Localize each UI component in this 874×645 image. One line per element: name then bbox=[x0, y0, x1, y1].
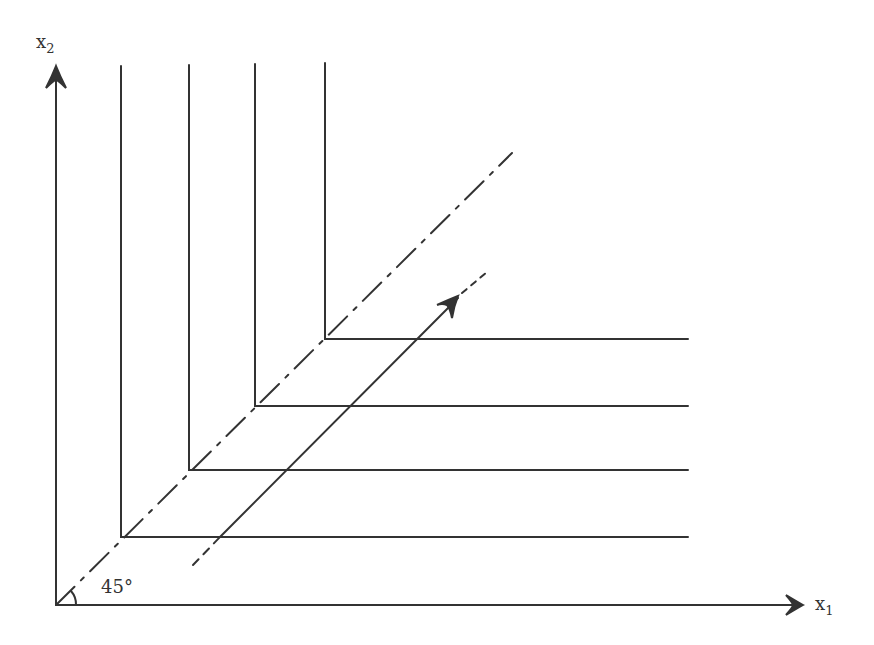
isoquant-1 bbox=[121, 66, 688, 537]
isoquant-diagram: x2 x1 45° bbox=[0, 0, 874, 645]
angle-arc bbox=[71, 591, 76, 605]
angle-label: 45° bbox=[101, 576, 133, 597]
isoquant-2 bbox=[189, 65, 688, 470]
x-axis-label: x1 bbox=[815, 593, 833, 618]
isoquant-3 bbox=[255, 64, 688, 406]
isoquant-4 bbox=[325, 63, 688, 339]
path-dashed-upper bbox=[462, 272, 487, 293]
path-dashed-lower bbox=[193, 537, 220, 565]
y-axis-label: x2 bbox=[36, 31, 54, 56]
